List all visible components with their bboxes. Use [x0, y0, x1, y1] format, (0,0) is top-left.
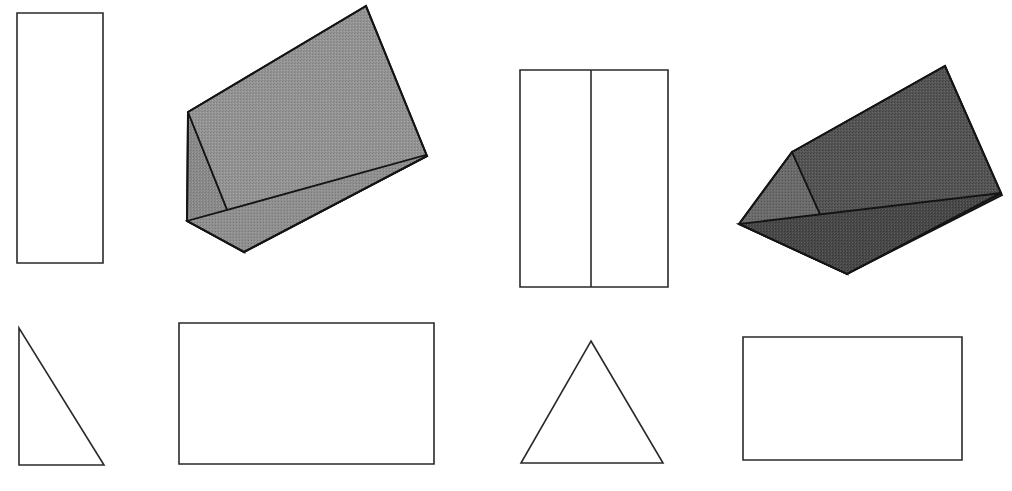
split-rectangle-outline	[520, 70, 668, 287]
split-rectangle	[520, 70, 668, 287]
wide-rectangle-right	[743, 337, 962, 460]
wide-rectangle-left	[179, 323, 434, 464]
isosceles-triangle	[521, 341, 663, 463]
right-triangle	[19, 328, 104, 465]
light-triangular-prism	[187, 6, 427, 252]
figure-svg	[0, 0, 1012, 491]
tall-rectangle	[17, 13, 103, 263]
dark-triangular-prism	[739, 66, 1002, 274]
geometry-figure-canvas	[0, 0, 1012, 491]
